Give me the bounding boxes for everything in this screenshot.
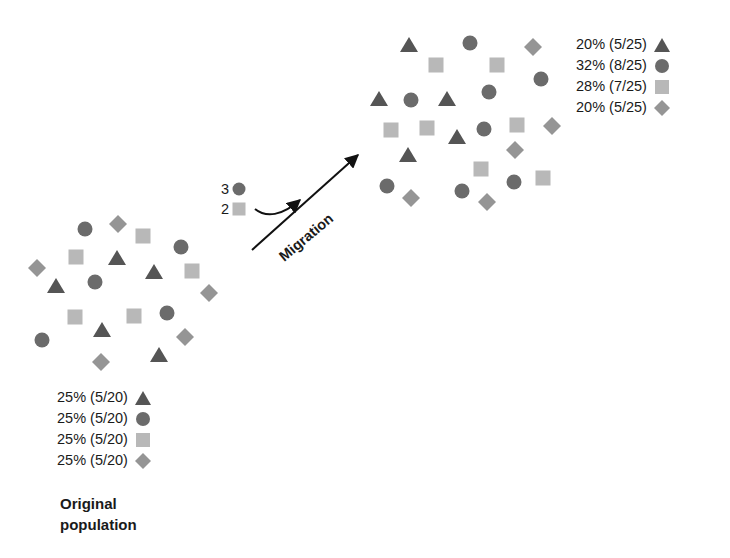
legend-label: 20% (5/25) [576, 97, 647, 118]
legend-label: 20% (5/25) [576, 34, 647, 55]
triangle-icon [134, 390, 152, 406]
triangle-icon [400, 37, 418, 52]
original-population-title: Original population [60, 493, 137, 535]
gene-flow-diagram: 3 2 Migration 20% (5/25) 32% (8/25) 28% … [0, 0, 730, 558]
square-icon [420, 121, 435, 136]
square-icon [68, 310, 83, 325]
legend-label: 25% (5/20) [57, 450, 128, 471]
triangle-icon [47, 278, 65, 293]
diamond-icon [109, 215, 127, 233]
square-icon [134, 432, 152, 448]
title-line-2: population [60, 514, 137, 535]
square-icon [136, 229, 151, 244]
diamond-icon [524, 38, 542, 56]
triangle-icon [108, 250, 126, 265]
legend-label: 25% (5/20) [57, 387, 128, 408]
legend-label: 28% (7/25) [576, 76, 647, 97]
legend-row-square: 25% (5/20) [57, 429, 152, 450]
legend-label: 32% (8/25) [576, 55, 647, 76]
circle-icon [232, 182, 246, 196]
triangle-icon [399, 147, 417, 162]
legend-row-diamond: 25% (5/20) [57, 450, 152, 471]
square-icon [127, 309, 142, 324]
square-icon [490, 58, 505, 73]
triangle-icon [150, 347, 168, 362]
diamond-icon [28, 259, 46, 277]
legend-label: 25% (5/20) [57, 429, 128, 450]
square-icon [510, 118, 525, 133]
legend-row-diamond: 20% (5/25) [576, 97, 671, 118]
circle-icon [455, 184, 470, 199]
circle-icon [380, 179, 395, 194]
legend-row-triangle: 25% (5/20) [57, 387, 152, 408]
square-icon [185, 264, 200, 279]
circle-icon [134, 411, 152, 427]
legend-row-circle: 25% (5/20) [57, 408, 152, 429]
migrant-circle-count-number: 3 [221, 180, 229, 198]
circle-icon [160, 306, 175, 321]
triangle-icon [370, 91, 388, 106]
triangle-icon [653, 37, 671, 53]
original-population-legend: 25% (5/20) 25% (5/20) 25% (5/20) 25% (5/… [57, 387, 152, 471]
triangle-icon [448, 129, 466, 144]
circle-icon [88, 275, 103, 290]
circle-icon [463, 36, 478, 51]
migrant-square-count-number: 2 [221, 200, 229, 218]
circle-icon [653, 58, 671, 74]
circle-icon [174, 240, 189, 255]
migrant-circle-count: 3 [221, 180, 246, 198]
legend-row-square: 28% (7/25) [576, 76, 671, 97]
circle-icon [534, 72, 549, 87]
triangle-icon [438, 91, 456, 106]
legend-label: 25% (5/20) [57, 408, 128, 429]
diamond-icon [176, 328, 194, 346]
circle-icon [507, 175, 522, 190]
square-icon [474, 162, 489, 177]
square-icon [536, 171, 551, 186]
circle-icon [482, 85, 497, 100]
square-icon [429, 58, 444, 73]
diamond-icon [200, 284, 218, 302]
diamond-icon [134, 453, 152, 469]
square-icon [384, 123, 399, 138]
square-icon [69, 250, 84, 265]
diamond-icon [653, 100, 671, 116]
diamond-icon [506, 141, 524, 159]
diamond-icon [478, 193, 496, 211]
circle-icon [404, 93, 419, 108]
diamond-icon [92, 353, 110, 371]
new-population-legend: 20% (5/25) 32% (8/25) 28% (7/25) 20% (5/… [576, 34, 671, 118]
circle-icon [35, 333, 50, 348]
diamond-icon [402, 189, 420, 207]
diamond-icon [543, 117, 561, 135]
triangle-icon [93, 322, 111, 337]
migrant-square-count: 2 [221, 200, 246, 218]
circle-icon [78, 222, 93, 237]
original-population-cluster [28, 215, 218, 371]
triangle-icon [145, 264, 163, 279]
title-line-1: Original [60, 493, 137, 514]
legend-row-triangle: 20% (5/25) [576, 34, 671, 55]
square-icon [232, 202, 246, 216]
square-icon [653, 79, 671, 95]
circle-icon [477, 122, 492, 137]
new-population-cluster [370, 36, 561, 212]
legend-row-circle: 32% (8/25) [576, 55, 671, 76]
